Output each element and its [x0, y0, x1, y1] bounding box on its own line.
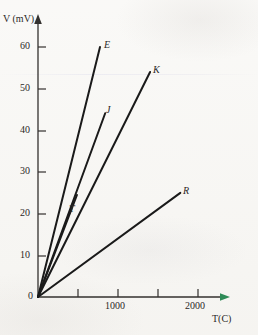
thermocouple-chart-figure: V (mV) T(C) 60 50 40 30 20 10 0 1000 200…: [0, 0, 258, 335]
y-axis-title: V (mV): [3, 14, 34, 24]
curve-line-K: [38, 72, 150, 297]
plot-canvas: [0, 0, 258, 335]
curve-label-R: R: [183, 186, 189, 196]
curve-label-T: T: [69, 204, 75, 214]
y-tick-label-0: 0: [28, 291, 33, 301]
y-axis-arrowhead: [34, 14, 42, 24]
curve-label-E: E: [104, 40, 110, 50]
y-tick-label-10: 10: [20, 250, 30, 260]
x-tick-label-1000: 1000: [105, 301, 125, 311]
curve-label-J: J: [106, 105, 110, 115]
y-tick-label-60: 60: [20, 41, 30, 51]
y-tick-label-20: 20: [20, 208, 30, 218]
y-tick-label-30: 30: [20, 166, 30, 176]
curve-label-K: K: [153, 65, 160, 75]
x-axis-arrowhead: [220, 293, 230, 301]
y-tick-label-40: 40: [20, 125, 30, 135]
x-tick-label-2000: 2000: [185, 301, 205, 311]
x-axis-title: T(C): [212, 314, 231, 324]
y-tick-label-50: 50: [20, 83, 30, 93]
